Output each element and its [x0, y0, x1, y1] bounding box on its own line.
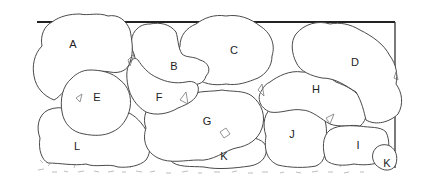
label-J: J [289, 128, 295, 140]
label-L: L [74, 140, 80, 152]
planting-plan-diagram: A B C D E F G H I J K K L [0, 0, 422, 184]
label-E: E [93, 91, 100, 103]
label-C: C [230, 44, 238, 56]
label-G: G [203, 115, 212, 127]
label-I: I [356, 139, 359, 151]
label-H: H [312, 83, 320, 95]
label-A: A [69, 38, 77, 50]
label-D: D [351, 56, 359, 68]
label-F: F [156, 91, 163, 103]
label-K-middle: K [220, 150, 228, 162]
label-B: B [170, 60, 177, 72]
label-K-right: K [383, 157, 391, 169]
